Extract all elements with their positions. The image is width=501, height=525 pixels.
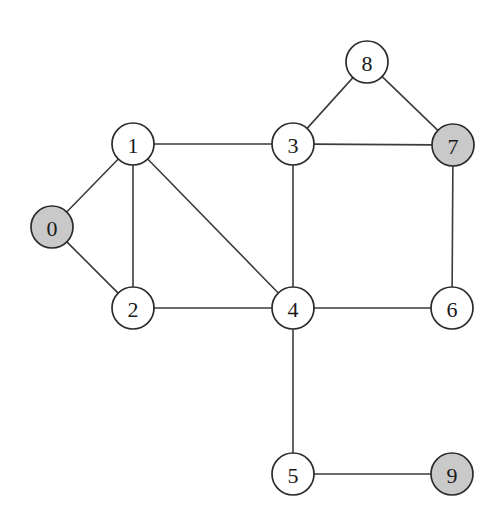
node-circle-1[interactable] xyxy=(112,123,154,165)
node-circle-2[interactable] xyxy=(112,287,154,329)
graph-edge-7-8 xyxy=(381,76,438,131)
graph-edge-0-1 xyxy=(66,158,119,212)
graph-node-4[interactable]: 4 xyxy=(272,287,314,329)
node-circle-7[interactable] xyxy=(432,124,474,166)
graph-edge-3-7 xyxy=(313,144,433,145)
node-layer: 0123456789 xyxy=(31,41,474,495)
graph-node-8[interactable]: 8 xyxy=(346,41,388,83)
graph-node-6[interactable]: 6 xyxy=(431,287,473,329)
node-circle-6[interactable] xyxy=(431,287,473,329)
graph-svg: 0123456789 xyxy=(0,0,501,525)
graph-diagram-canvas: 0123456789 xyxy=(0,0,501,525)
graph-edge-3-8 xyxy=(306,77,353,129)
node-circle-0[interactable] xyxy=(31,206,73,248)
graph-node-7[interactable]: 7 xyxy=(432,124,474,166)
node-circle-5[interactable] xyxy=(272,453,314,495)
graph-node-2[interactable]: 2 xyxy=(112,287,154,329)
graph-node-1[interactable]: 1 xyxy=(112,123,154,165)
graph-edge-0-2 xyxy=(66,241,119,294)
node-circle-3[interactable] xyxy=(272,123,314,165)
graph-node-3[interactable]: 3 xyxy=(272,123,314,165)
node-circle-4[interactable] xyxy=(272,287,314,329)
graph-node-5[interactable]: 5 xyxy=(272,453,314,495)
graph-edge-6-7 xyxy=(452,165,453,288)
node-circle-8[interactable] xyxy=(346,41,388,83)
graph-node-9[interactable]: 9 xyxy=(431,453,473,495)
node-circle-9[interactable] xyxy=(431,453,473,495)
graph-node-0[interactable]: 0 xyxy=(31,206,73,248)
graph-edge-1-4 xyxy=(147,158,279,293)
